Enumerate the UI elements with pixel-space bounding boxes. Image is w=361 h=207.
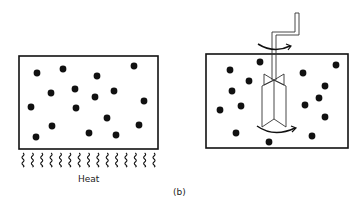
stirrer-crank-handle: [272, 13, 299, 68]
heat-wave: [144, 153, 146, 167]
heat-wave: [22, 153, 24, 167]
right-panel: [206, 13, 348, 148]
particle: [104, 115, 111, 122]
particle: [233, 130, 240, 137]
particle: [113, 132, 120, 139]
particle: [266, 139, 273, 146]
particle: [86, 130, 93, 137]
particle: [49, 123, 56, 130]
particle: [322, 83, 329, 90]
particle: [72, 86, 79, 93]
particle: [131, 63, 138, 70]
heat-wave: [59, 153, 61, 167]
heat-label: Heat: [78, 174, 99, 184]
particle: [33, 134, 40, 141]
heat-wave: [116, 153, 118, 167]
particle: [227, 67, 234, 74]
particle: [92, 94, 99, 101]
heat-wave: [41, 153, 43, 167]
particle: [333, 62, 340, 69]
particle: [217, 107, 224, 114]
heat-waves: [22, 153, 155, 167]
heat-wave: [97, 153, 99, 167]
particle: [300, 70, 307, 77]
panel-label: (b): [173, 187, 186, 197]
particle: [94, 73, 101, 80]
particle: [141, 98, 148, 105]
stirrer-paddle: [262, 80, 286, 127]
heat-wave: [78, 153, 80, 167]
particle: [60, 66, 67, 73]
particle: [238, 103, 245, 110]
particle: [316, 95, 323, 102]
heat-wave: [134, 153, 136, 167]
particle: [246, 78, 253, 85]
heat-wave: [125, 153, 127, 167]
particle: [229, 88, 236, 95]
particle: [257, 59, 264, 66]
particle: [34, 70, 41, 77]
heat-wave: [69, 153, 71, 167]
left-particles: [28, 63, 148, 141]
particle: [111, 88, 118, 95]
heat-wave: [88, 153, 90, 167]
top-rotation-arrow: [258, 44, 290, 50]
particle: [136, 122, 143, 129]
heat-wave: [50, 153, 52, 167]
stirrer: [262, 13, 299, 127]
particle: [302, 102, 309, 109]
particle: [48, 90, 55, 97]
heat-wave: [153, 153, 155, 167]
diagram-canvas: [0, 0, 361, 207]
particle: [309, 133, 316, 140]
stirrer-shaft: [272, 68, 276, 80]
rotation-arrows: [257, 44, 296, 133]
heat-wave: [31, 153, 33, 167]
left-panel: [19, 56, 158, 167]
particle: [322, 114, 329, 121]
particle: [28, 104, 35, 111]
heat-wave: [106, 153, 108, 167]
particle: [73, 105, 80, 112]
